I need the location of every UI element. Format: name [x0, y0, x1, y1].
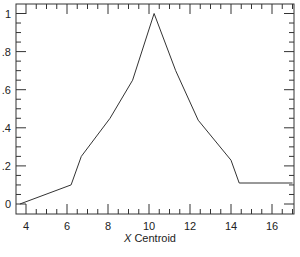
y-tick-label: .2	[2, 160, 11, 172]
x-tick-label: 4	[23, 220, 29, 232]
y-tick-label: .8	[2, 46, 11, 58]
line-chart: 0.2.4.6.81 46810121416 X Centroid	[0, 0, 300, 257]
x-tick-label: 6	[64, 220, 70, 232]
y-tick-label: .6	[2, 84, 11, 96]
x-axis-tick-labels: 46810121416	[23, 220, 278, 232]
x-axis-title: X Centroid	[123, 232, 176, 244]
data-line	[20, 14, 293, 205]
x-tick-label: 8	[105, 220, 111, 232]
y-tick-label: 0	[5, 198, 11, 210]
x-tick-label: 14	[225, 220, 237, 232]
y-axis-tick-labels: 0.2.4.6.81	[2, 8, 11, 211]
x-tick-label: 16	[266, 220, 278, 232]
y-tick-label: 1	[5, 8, 11, 20]
x-tick-label: 10	[143, 220, 155, 232]
x-tick-label: 12	[184, 220, 196, 232]
y-tick-label: .4	[2, 122, 11, 134]
